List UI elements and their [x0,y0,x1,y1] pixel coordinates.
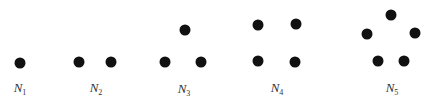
dot-icon [386,10,397,21]
label-subscript: 3 [186,89,190,98]
dot-icon [15,58,26,69]
label-subscript: 5 [394,88,398,97]
dot-icon [196,57,207,68]
label-base: N [386,80,395,95]
dot-icon [290,57,301,68]
label-base: N [14,80,23,95]
label-base: N [271,80,280,95]
dot-icon [74,57,85,68]
figure-label: N3 [178,81,191,98]
dot-icon [253,20,264,31]
dot-icon [160,57,171,68]
figure-label: N5 [386,80,399,97]
dot-icon [106,57,117,68]
figure-label: N1 [14,80,27,97]
dot-icon [373,56,384,67]
dot-icon [291,19,302,30]
dot-icon [410,28,421,39]
dot-icon [399,56,410,67]
dot-pattern-diagram: N1N2N3N4N5 [0,0,432,107]
figure-label: N4 [271,80,284,97]
label-base: N [90,80,99,95]
label-base: N [178,81,187,96]
dot-icon [253,56,264,67]
dot-icon [180,25,191,36]
label-subscript: 2 [98,88,102,97]
dot-icon [362,29,373,40]
label-subscript: 4 [279,88,283,97]
figure-label: N2 [90,80,103,97]
label-subscript: 1 [22,88,26,97]
